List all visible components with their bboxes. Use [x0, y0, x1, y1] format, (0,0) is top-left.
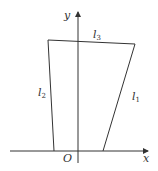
label-l1: l1 — [132, 90, 140, 104]
coordinate-diagram: y x O l3 l2 l1 — [0, 0, 158, 171]
line-l2 — [48, 40, 54, 151]
label-l2: l2 — [38, 86, 46, 100]
x-axis-label: x — [143, 152, 150, 165]
label-l3: l3 — [93, 28, 101, 42]
origin-label: O — [63, 152, 72, 165]
line-l1 — [103, 44, 135, 151]
y-axis-label: y — [63, 9, 71, 22]
line-l3 — [48, 40, 135, 44]
diagram-canvas: y x O l3 l2 l1 — [0, 0, 158, 171]
